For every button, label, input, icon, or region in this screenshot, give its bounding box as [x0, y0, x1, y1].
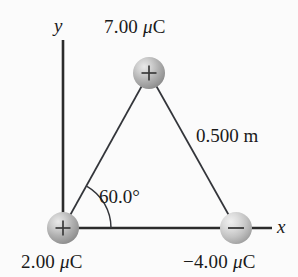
- charge-sphere-bottom-right: [220, 212, 252, 244]
- charge-label-top: 7.00 μC: [104, 17, 166, 36]
- physics-diagram: 7.00 μC 2.00 μC −4.00 μC y x 0.500 m 60.…: [0, 0, 298, 277]
- side-length-label: 0.500 m: [196, 126, 258, 145]
- x-axis-label: x: [277, 217, 285, 236]
- angle-label: 60.0°: [99, 187, 140, 206]
- triangle-side-right: [149, 73, 236, 228]
- charge-label-bottom-left: 2.00 μC: [21, 252, 83, 271]
- charge-sphere-top: [133, 57, 165, 89]
- charge-label-bottom-right: −4.00 μC: [183, 252, 256, 271]
- charge-sphere-bottom-left: [47, 212, 79, 244]
- y-axis-label: y: [54, 16, 62, 35]
